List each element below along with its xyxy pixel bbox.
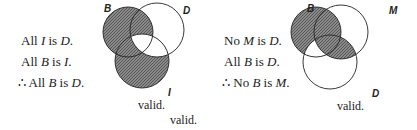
left-conclusion: ∴ All B is D. bbox=[18, 75, 84, 91]
left-verdict: valid. bbox=[138, 98, 165, 113]
right-label-b: B bbox=[307, 3, 314, 14]
right-verdict: valid. bbox=[337, 99, 364, 114]
right-venn bbox=[280, 0, 368, 89]
left-venn bbox=[90, 0, 190, 100]
extra-verdict: valid. bbox=[170, 113, 197, 128]
left-premise-2: All B is I. bbox=[21, 54, 72, 70]
left-premise-1: All I is D. bbox=[21, 33, 73, 49]
left-label-d: D bbox=[183, 5, 190, 16]
right-label-d: D bbox=[372, 88, 379, 99]
right-premise-1: No M is D. bbox=[224, 33, 282, 49]
left-label-b: B bbox=[104, 3, 111, 14]
left-label-i: I bbox=[168, 87, 171, 98]
right-label-m: M bbox=[389, 5, 397, 16]
right-premise-2: All B is D. bbox=[224, 54, 280, 70]
right-conclusion: ∴ No B is M. bbox=[222, 75, 290, 91]
